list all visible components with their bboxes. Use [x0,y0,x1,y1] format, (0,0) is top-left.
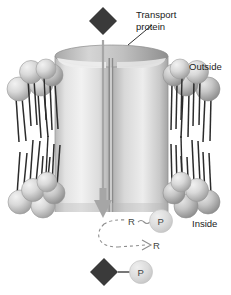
phosphate-label-bound: P [158,216,164,227]
protein-channel-cleft-right [112,58,114,212]
bound-receptor-label: R [128,216,135,227]
protein-channel-lumen [110,58,112,212]
protein-right-subunit [112,56,168,212]
protein-channel-cleft-left [109,58,111,212]
transport-protein-label-line2: protein [136,21,165,32]
active-transport-figure: Transport protein Outside Inside R P R P [0,0,231,295]
released-receptor-label: R [153,240,160,251]
phosphate-label-carrier: P [138,267,144,278]
transport-protein [55,45,168,212]
outside-label: Outside [189,61,222,72]
transport-protein-label-line1: Transport [136,9,177,20]
protein-bottom-shadow [55,203,168,212]
diagram-canvas: Transport protein Outside Inside R P R P [0,0,231,295]
inside-label: Inside [192,218,217,229]
